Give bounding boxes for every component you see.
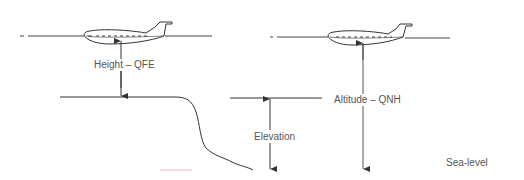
aircraft-icon — [328, 24, 412, 45]
terrain-profile — [60, 97, 253, 170]
elevation-label: Elevation — [252, 131, 297, 143]
sea-level-label: Sea-level — [444, 157, 490, 169]
right-flight-line — [270, 37, 450, 38]
aircraft-icon — [84, 22, 172, 44]
altitude-qnh-label: Altitude – QNH — [332, 94, 403, 106]
height-qfe-label: Height – QFE — [92, 59, 157, 71]
altimetry-diagram — [0, 0, 524, 180]
